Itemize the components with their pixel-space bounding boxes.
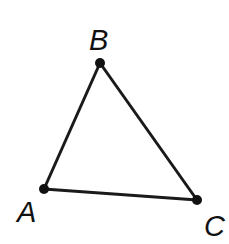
vertex-dot-b	[95, 58, 105, 68]
edge-ab	[44, 63, 100, 189]
vertex-label-a: A	[17, 198, 36, 227]
edge-bc	[100, 63, 197, 200]
vertex-dot-a	[39, 184, 49, 194]
vertex-dot-c	[192, 195, 202, 205]
edge-ac	[44, 189, 197, 200]
triangle-figure: A B C	[0, 0, 229, 244]
vertex-label-c: C	[204, 212, 225, 241]
vertex-label-b: B	[89, 26, 108, 55]
